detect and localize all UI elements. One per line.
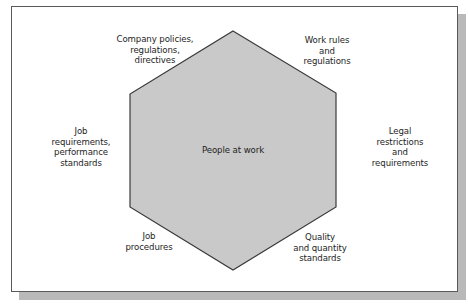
label-job-procedures: Job procedures <box>125 231 172 252</box>
label-quality-standards: Quality and quantity standards <box>293 232 347 264</box>
label-legal-restrictions: Legal restrictions and requirements <box>372 126 428 168</box>
center-label-people-at-work: People at work <box>202 145 264 156</box>
label-job-requirements: Job requirements, performance standards <box>52 126 111 168</box>
label-company-policies: Company policies, regulations, directive… <box>116 34 193 66</box>
label-work-rules: Work rules and regulations <box>303 35 350 67</box>
